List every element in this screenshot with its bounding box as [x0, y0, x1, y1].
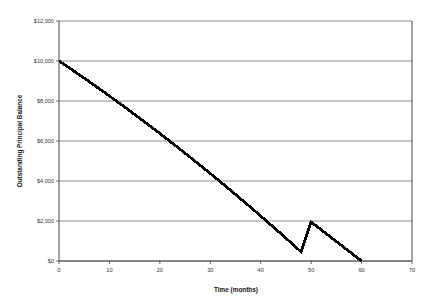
y-tick-label: $6,000 — [37, 138, 54, 144]
x-tick-label: 60 — [358, 267, 364, 273]
x-tick-label: 40 — [258, 267, 264, 273]
y-tick-label: $12,000 — [34, 18, 54, 24]
y-tick-label: $0 — [48, 258, 54, 264]
x-tick-label: 50 — [308, 267, 314, 273]
amortization-line-chart: $12,000$10,000$8,000$6,000$4,000$2,000$0… — [0, 0, 433, 305]
x-axis-title: Time (months) — [214, 286, 258, 294]
x-tick-label: 0 — [57, 267, 60, 273]
y-tick-label: $8,000 — [37, 98, 54, 104]
x-tick-label: 70 — [409, 267, 415, 273]
chart-background — [0, 0, 433, 305]
chart-container: $12,000$10,000$8,000$6,000$4,000$2,000$0… — [0, 0, 433, 305]
x-tick-label: 20 — [157, 267, 163, 273]
x-tick-label: 30 — [207, 267, 213, 273]
y-tick-label: $10,000 — [34, 58, 54, 64]
y-axis-title: Outstanding Principal Balance — [16, 94, 24, 187]
x-tick-label: 10 — [106, 267, 112, 273]
y-tick-label: $2,000 — [37, 218, 54, 224]
y-tick-label: $4,000 — [37, 178, 54, 184]
